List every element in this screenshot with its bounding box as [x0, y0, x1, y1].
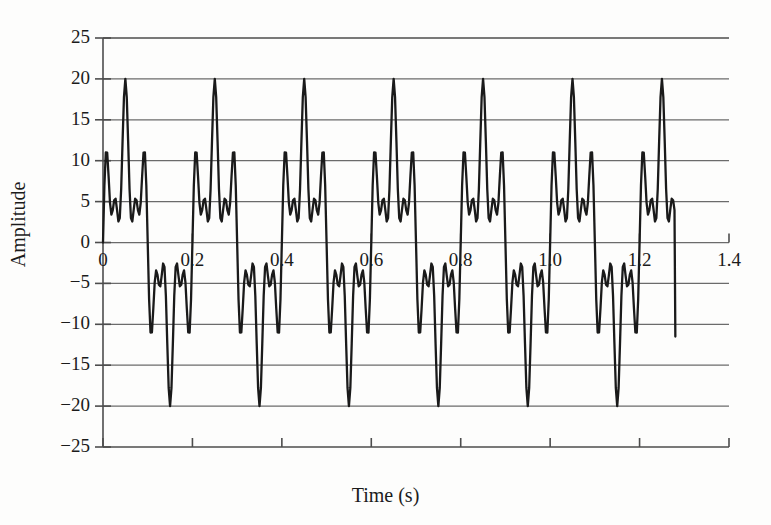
x-tick-label: 1.4: [694, 249, 764, 271]
y-tick-label: −10: [60, 312, 90, 334]
x-tick-label: 1.2: [605, 249, 675, 271]
y-tick-label: 10: [71, 149, 90, 171]
y-tick-label: −15: [60, 353, 90, 375]
x-tick-label: 0.8: [426, 249, 496, 271]
x-tick-label: 0.2: [157, 249, 227, 271]
y-tick-label: 5: [81, 190, 91, 212]
x-tick-label: 0.6: [336, 249, 406, 271]
y-tick-label: 20: [71, 67, 90, 89]
y-tick-label: −5: [70, 271, 90, 293]
y-tick-label: −20: [60, 394, 90, 416]
y-tick-label: 25: [71, 26, 90, 48]
y-tick-label: 15: [71, 108, 90, 130]
x-tick-label: 1.0: [515, 249, 585, 271]
x-tick-label: 0.4: [247, 249, 317, 271]
y-tick-label: −25: [60, 435, 90, 457]
x-tick-label: 0: [68, 249, 138, 271]
x-axis-title: Time (s): [0, 484, 771, 507]
y-axis-title: Amplitude: [7, 145, 30, 305]
chart-figure: 2520151050−5−10−15−20−25 00.20.40.60.81.…: [0, 0, 771, 525]
